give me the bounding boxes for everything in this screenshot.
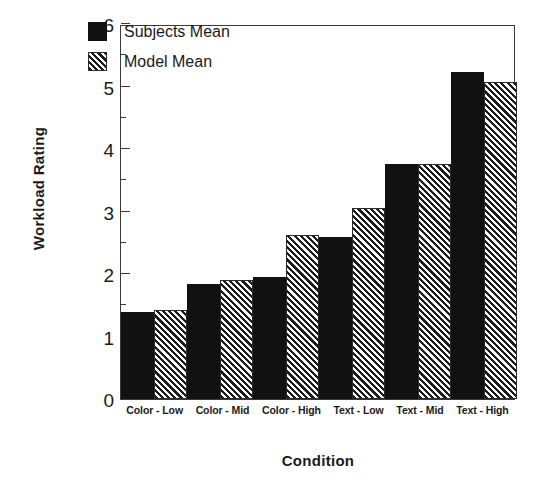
bar-group (187, 26, 253, 399)
hatched-swatch (88, 52, 107, 71)
bar-subjects-mean[interactable] (253, 277, 286, 399)
bar-group (121, 26, 187, 399)
solid-swatch (88, 22, 107, 41)
y-tick-label-0: 0 (74, 391, 114, 410)
x-axis-tick-labels: Color - LowColor - MidColor - HighText -… (120, 404, 515, 416)
bar-subjects-mean[interactable] (385, 164, 418, 399)
x-tick-label: Color - High (262, 404, 321, 416)
bar-model-mean[interactable] (154, 310, 187, 399)
bar-group (385, 26, 451, 399)
x-tick-label: Color - Low (126, 404, 183, 416)
y-tick-label-2: 2 (74, 266, 114, 285)
bar-chart-figure: Workload Rating 0123456 Color - LowColor… (0, 0, 560, 486)
bar-group (319, 26, 385, 399)
y-tick-label-1: 1 (74, 328, 114, 347)
x-tick-label: Color - Mid (196, 404, 250, 416)
chart-legend: Subjects MeanModel Mean (88, 22, 230, 71)
legend-item[interactable]: Subjects Mean (88, 22, 230, 41)
legend-label: Subjects Mean (124, 23, 230, 41)
bar-model-mean[interactable] (418, 164, 451, 399)
bar-model-mean[interactable] (286, 235, 319, 399)
bar-subjects-mean[interactable] (121, 312, 154, 400)
y-axis-title: Workload Rating (30, 89, 47, 289)
bar-group (253, 26, 319, 399)
x-tick-label: Text - Mid (396, 404, 443, 416)
bar-model-mean[interactable] (484, 82, 517, 399)
bar-groups (121, 26, 514, 399)
bar-group (451, 26, 517, 399)
bar-model-mean[interactable] (352, 208, 385, 399)
legend-item[interactable]: Model Mean (88, 52, 230, 71)
x-axis-title: Condition (120, 452, 516, 469)
bar-model-mean[interactable] (220, 280, 253, 399)
plot-area (120, 25, 515, 400)
bar-subjects-mean[interactable] (187, 284, 220, 399)
bar-subjects-mean[interactable] (451, 72, 484, 400)
legend-label: Model Mean (124, 53, 212, 71)
y-tick-label-5: 5 (74, 78, 114, 97)
x-tick-label: Text - High (456, 404, 508, 416)
y-tick-label-3: 3 (74, 203, 114, 222)
y-tick-label-4: 4 (74, 141, 114, 160)
x-tick-label: Text - Low (334, 404, 384, 416)
bar-subjects-mean[interactable] (319, 237, 352, 400)
